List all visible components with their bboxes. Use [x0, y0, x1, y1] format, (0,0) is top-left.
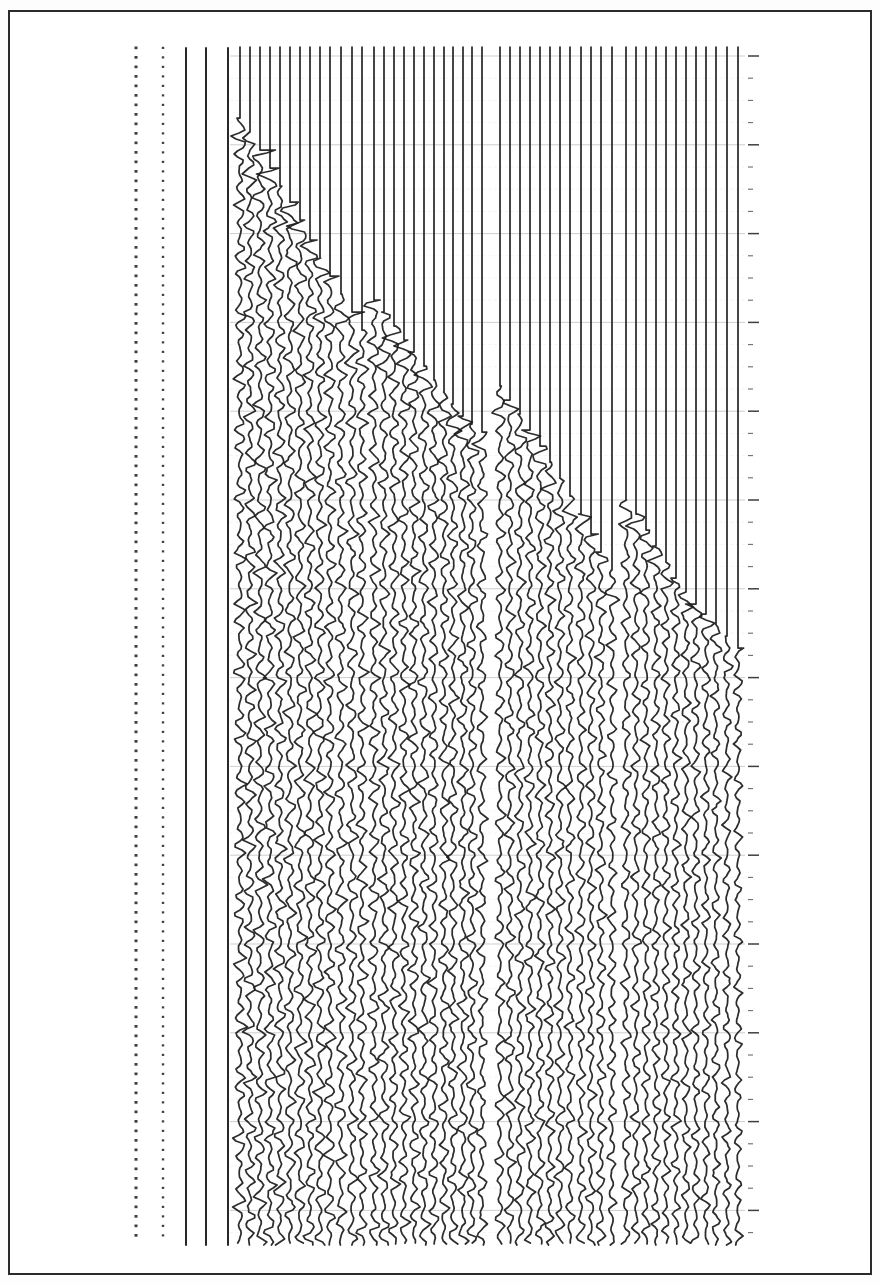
traces-layer	[186, 47, 744, 1245]
seismic-trace	[407, 47, 421, 1243]
seismic-trace	[661, 47, 673, 1243]
seismic-trace	[522, 47, 541, 1243]
dotted-line-second	[162, 47, 164, 1237]
seismic-trace	[563, 47, 578, 1243]
seismic-trace	[515, 47, 527, 1245]
seismic-trace	[710, 47, 721, 1245]
seismic-trace	[281, 47, 299, 1243]
seismic-trace	[427, 47, 439, 1244]
seismic-trace	[472, 47, 488, 1245]
seismic-trace	[584, 47, 598, 1245]
seismic-trace	[376, 47, 390, 1245]
time-axis-ticks	[748, 56, 759, 1233]
seismic-trace	[595, 47, 608, 1245]
seismic-trace	[533, 47, 547, 1244]
seismic-trace	[503, 47, 518, 1243]
seismic-trace	[553, 47, 566, 1243]
seismic-trace	[679, 47, 694, 1243]
seismic-trace	[364, 47, 381, 1245]
seismic-trace	[414, 47, 432, 1245]
seismic-trace	[394, 47, 411, 1243]
seismic-trace	[273, 47, 287, 1245]
seismic-trace	[575, 47, 591, 1243]
seismic-trace	[382, 47, 400, 1244]
page-root	[0, 0, 880, 1285]
seismic-trace	[242, 47, 257, 1245]
seismic-trace	[356, 47, 369, 1245]
seismic-trace	[722, 47, 733, 1245]
seismic-record-section	[0, 0, 880, 1285]
dotted-line-left	[135, 47, 138, 1237]
seismic-trace	[454, 47, 472, 1244]
seismic-trace	[700, 47, 715, 1244]
seismic-trace	[733, 47, 743, 1245]
seismic-trace	[626, 47, 645, 1243]
seismic-trace	[671, 47, 682, 1244]
seismic-trace	[492, 47, 506, 1244]
seismic-plot-svg	[0, 0, 880, 1285]
seismic-trace	[301, 47, 318, 1245]
seismic-trace	[640, 47, 653, 1244]
dotted-markers-layer	[135, 47, 165, 1237]
seismic-trace	[605, 47, 619, 1245]
seismic-trace	[323, 47, 339, 1245]
seismic-trace	[647, 47, 662, 1245]
seismic-trace	[619, 47, 632, 1244]
seismic-trace	[467, 47, 479, 1243]
